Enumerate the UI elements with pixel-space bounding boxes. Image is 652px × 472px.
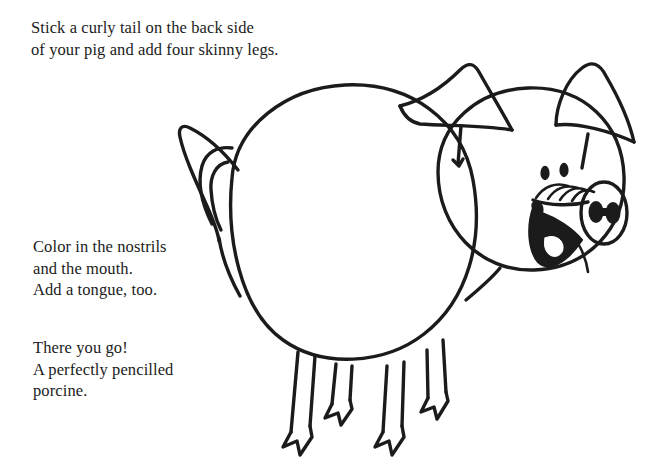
pig-left-ear-crease — [458, 126, 461, 164]
illustration-page: Stick a curly tail on the back side of y… — [0, 0, 652, 472]
pig-neck-line — [466, 268, 500, 300]
pig-leg-front-far — [375, 362, 404, 455]
pig-right-ear-crease — [582, 134, 588, 168]
pig-eye-left — [540, 166, 549, 180]
instruction-step-finished: There you go! A perfectly pencilled porc… — [33, 337, 173, 402]
pig-eye-right — [559, 163, 568, 177]
instruction-step-tail-legs: Stick a curly tail on the back side of y… — [31, 17, 279, 60]
pig-leg-hind-far — [283, 352, 315, 455]
instruction-step-nostrils-mouth: Color in the nostrils and the mouth. Add… — [33, 236, 167, 301]
pig-right-ear-base — [556, 124, 634, 142]
pig-leg-hind-near — [325, 364, 352, 425]
pig-nostril-bridge — [596, 208, 613, 216]
pig-leg-front-near — [421, 340, 448, 419]
pig-curly-tail — [179, 126, 238, 241]
pig-left-ear-base — [400, 106, 512, 130]
